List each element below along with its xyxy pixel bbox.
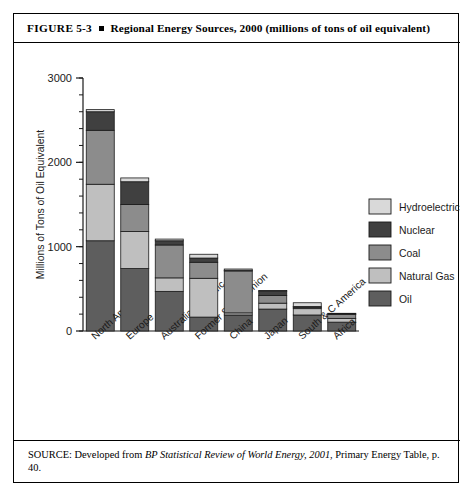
bar-segment-hydroelectric xyxy=(190,254,218,258)
legend-label-hydroelectric: Hydroelectric xyxy=(399,202,460,213)
bar-segment-nuclear xyxy=(155,241,183,245)
figure-number: 5-3 xyxy=(76,22,91,34)
stacked-bar-chart: 0100020003000Millions of Tons of Oil Equ… xyxy=(14,59,460,431)
bar-segment-coal xyxy=(121,205,149,232)
bar-segment-hydroelectric xyxy=(224,269,252,270)
bar-segment-hydroelectric xyxy=(121,178,149,182)
chart-plot-area: 0100020003000Millions of Tons of Oil Equ… xyxy=(14,59,460,431)
bar-segment-coal xyxy=(86,130,114,184)
bar-segment-nuclear xyxy=(86,112,114,131)
legend-swatch-coal xyxy=(369,245,391,260)
bar-segment-natural-gas xyxy=(259,303,287,309)
bar-segment-natural-gas xyxy=(190,278,218,317)
source-note: SOURCE: Developed from BP Statistical Re… xyxy=(14,440,460,482)
bar-segment-hydroelectric xyxy=(259,291,287,292)
bar-segment-nuclear xyxy=(190,258,218,262)
y-axis-tick-label: 2000 xyxy=(48,156,72,168)
y-axis-tick-label: 1000 xyxy=(48,241,72,253)
bar-segment-coal xyxy=(190,262,218,278)
y-axis-title: Millions of Tons of Oil Equivalent xyxy=(35,130,46,280)
bar-segment-coal xyxy=(155,245,183,278)
bar-segment-natural-gas xyxy=(86,184,114,241)
bar-segment-nuclear xyxy=(121,182,149,205)
bar-segment-coal xyxy=(259,296,287,304)
bar-segment-hydroelectric xyxy=(293,303,321,307)
bar-segment-natural-gas xyxy=(121,231,149,268)
figure-container: FIGURE 5-3 Regional Energy Sources, 2000… xyxy=(13,13,459,483)
bullet-square-icon xyxy=(99,26,104,31)
figure-label: FIGURE xyxy=(27,22,73,34)
legend-swatch-nuclear xyxy=(369,222,391,237)
y-axis-tick-label: 0 xyxy=(66,325,72,337)
legend-swatch-hydroelectric xyxy=(369,199,391,214)
source-citation: BP Statistical Review of World Energy, 2… xyxy=(145,449,330,460)
bar-group xyxy=(86,110,114,331)
legend-swatch-oil xyxy=(369,291,391,306)
legend-label-coal: Coal xyxy=(399,248,420,259)
figure-caption: FIGURE 5-3 Regional Energy Sources, 2000… xyxy=(14,14,460,43)
bar-group xyxy=(121,178,149,331)
bar-segment-hydroelectric xyxy=(328,313,356,314)
bar-segment-natural-gas xyxy=(155,278,183,291)
y-axis-tick-label: 3000 xyxy=(48,72,72,84)
legend-label-natural-gas: Natural Gas xyxy=(399,271,454,282)
legend-label-oil: Oil xyxy=(399,294,412,305)
figure-title: Regional Energy Sources, 2000 (millions … xyxy=(111,22,431,34)
bar-segment-hydroelectric xyxy=(86,110,114,112)
bar-segment-hydroelectric xyxy=(155,239,183,241)
legend-swatch-natural-gas xyxy=(369,268,391,283)
bar-segment-coal xyxy=(224,271,252,313)
legend-label-nuclear: Nuclear xyxy=(399,225,435,236)
source-prefix: SOURCE: Developed from xyxy=(28,449,145,460)
